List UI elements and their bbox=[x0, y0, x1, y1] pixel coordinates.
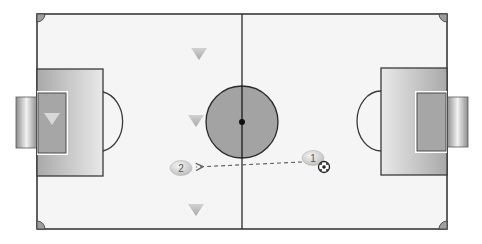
soccer-pitch-diagram: 2 1 bbox=[0, 0, 482, 244]
player-1-label: 1 bbox=[310, 153, 316, 164]
player-2-label: 2 bbox=[178, 163, 184, 174]
soccer-ball-icon bbox=[319, 162, 330, 173]
left-goal bbox=[16, 97, 37, 148]
right-goal bbox=[447, 97, 468, 147]
center-spot bbox=[239, 119, 245, 125]
player-marker-2[interactable]: 2 bbox=[170, 161, 192, 176]
right-goal-area bbox=[417, 93, 446, 151]
